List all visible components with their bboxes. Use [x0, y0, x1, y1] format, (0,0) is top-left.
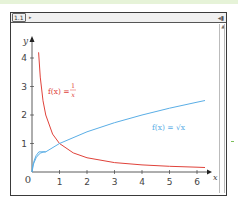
x-tick-label: 6: [194, 177, 200, 187]
x-axis-label: x: [213, 173, 218, 182]
reciprocal-curve: [39, 52, 205, 167]
y-tick-label: 3: [21, 82, 27, 92]
x-tick-label: 2: [84, 177, 90, 187]
x-axis-arrow-icon: [207, 170, 212, 175]
side-marker: [231, 141, 234, 142]
axes: [32, 38, 207, 172]
reciprocal-label: f(x) = 1 x: [48, 82, 76, 99]
sqrt-label: f(x) = √x: [152, 123, 186, 132]
y-axis-label: y: [22, 36, 29, 46]
y-tick-label: 2: [21, 110, 27, 120]
function-plot: 1 2 3 4 5 6 1 2 3 4 0 x y f(x) = 1 x f(x…: [0, 0, 238, 205]
origin-label: 0: [25, 174, 31, 185]
svg-text:f(x) =: f(x) =: [48, 87, 70, 96]
y-tick-label: 4: [21, 53, 27, 63]
x-tick-label: 1: [57, 177, 63, 187]
sqrt-curve: [32, 101, 205, 173]
x-tick-label: 4: [139, 177, 145, 187]
x-tick-label: 3: [112, 177, 118, 187]
y-tick-label: 1: [21, 139, 27, 149]
svg-text:1: 1: [71, 82, 75, 90]
svg-text:x: x: [71, 91, 75, 99]
x-tick-label: 5: [167, 177, 173, 187]
y-axis-arrow-icon: [30, 36, 35, 42]
